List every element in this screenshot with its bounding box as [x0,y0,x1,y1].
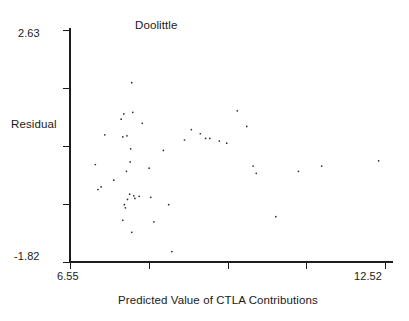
x-axis-tick-label-min: 6.55 [57,270,79,282]
data-point [104,134,106,136]
data-point [163,150,165,152]
data-point [275,216,277,218]
data-point [100,186,102,188]
x-axis-tick-label-max: 12.52 [354,270,382,282]
data-point [126,135,128,137]
data-point [126,170,128,172]
data-point [97,189,99,191]
data-point [153,221,155,223]
data-point [123,113,125,115]
data-point [130,148,132,150]
data-point [171,251,173,253]
data-point [138,195,140,197]
data-point [209,138,211,140]
data-point [255,173,257,175]
data-points-group [94,82,379,253]
data-point [378,160,380,162]
data-point [129,193,131,195]
y-axis-tick-label-max: 2.63 [18,27,40,39]
data-point [168,204,170,206]
data-point [199,133,201,135]
data-point [133,195,135,197]
data-point [205,138,207,140]
data-point [125,207,127,209]
data-point [132,112,134,114]
data-point [226,142,228,144]
x-axis-label: Predicted Value of CTLA Contributions [118,294,318,306]
data-point [94,164,96,166]
data-point [129,161,131,163]
data-point [131,82,133,84]
data-point [113,179,115,181]
axes-group [63,28,393,269]
data-point [122,219,124,221]
data-point [236,110,238,112]
data-point [124,204,126,206]
data-point [141,122,143,124]
data-point [131,231,133,233]
data-point [218,140,220,142]
data-point [252,165,254,167]
data-point [148,167,150,169]
data-point [184,139,186,141]
residual-scatter-plot-figure: Doolittle Residual 2.63 -1.82 6.55 12.52… [0,0,409,321]
data-point [246,126,248,128]
chart-title: Doolittle [135,19,177,31]
data-point [321,165,323,167]
y-axis-label: Residual [11,118,57,130]
data-point [122,136,124,138]
y-axis-tick-label-min: -1.82 [14,250,40,262]
data-point [134,198,136,200]
data-point [127,199,129,201]
data-point [298,170,300,172]
data-point [191,129,193,131]
data-point [120,118,122,120]
data-point [150,197,152,199]
